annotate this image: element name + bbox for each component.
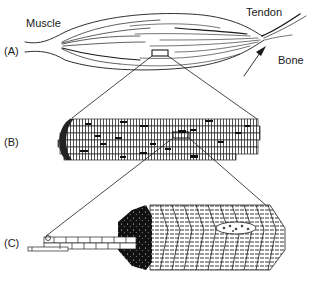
panel-a-muscle: [25, 14, 306, 76]
panel-label-a: (A): [4, 45, 19, 57]
muscle-structure-diagram: [0, 0, 315, 285]
panel-label-b: (B): [4, 136, 19, 148]
label-muscle: Muscle: [26, 17, 61, 29]
label-bone: Bone: [278, 54, 304, 66]
label-tendon: Tendon: [246, 6, 282, 18]
bone-arrow-head: [256, 46, 266, 56]
panel-label-c: (C): [4, 237, 19, 249]
panel-b-fiber-bundle: [58, 119, 260, 160]
panel-c-myofibril: [28, 205, 285, 270]
